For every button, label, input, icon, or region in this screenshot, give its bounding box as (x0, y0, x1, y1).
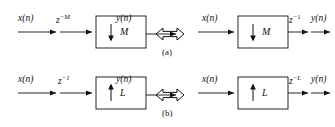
input-signal-label: x(n) (202, 14, 217, 24)
downsample-arrow-icon (106, 22, 116, 42)
row-b-left-output-label: y(n) (116, 75, 131, 85)
row-a-caption: (a) (162, 47, 172, 57)
equivalence-double-arrow-icon (155, 24, 185, 44)
output-signal-label: y(n) (311, 75, 326, 85)
row-b-right-system: L x(n) z−L y(n) (196, 63, 332, 121)
downsample-arrow-icon (248, 22, 258, 42)
upsample-arrow-icon (248, 83, 258, 103)
noble-identities-figure: M x(n) z−M y(n) (a) (0, 0, 335, 127)
figure-row-b: L x(n) z−1 y(n) (b) (0, 63, 335, 121)
block-factor-label: L (262, 87, 268, 98)
block-factor-label: L (120, 87, 126, 98)
delay-element-label: z−1 (289, 14, 301, 26)
row-b-caption: (b) (162, 108, 173, 118)
input-signal-label: x(n) (18, 14, 33, 24)
input-signal-label: x(n) (18, 75, 33, 85)
delay-element-label: z−L (289, 75, 301, 87)
delay-element-label: z−M (56, 14, 70, 26)
block-factor-label: M (120, 26, 128, 37)
row-b-left-signal-flow (8, 63, 156, 121)
upsample-arrow-icon (106, 83, 116, 103)
row-b-left-system: L x(n) z−1 (8, 63, 156, 121)
row-a-left-output-label: y(n) (116, 14, 131, 24)
block-factor-label: M (262, 26, 270, 37)
row-a-right-system: M x(n) z−1 y(n) (196, 2, 332, 60)
input-signal-label: x(n) (202, 75, 217, 85)
equivalence-double-arrow-icon (155, 85, 185, 105)
figure-row-a: M x(n) z−M y(n) (a) (0, 2, 335, 60)
delay-element-label: z−1 (58, 75, 70, 87)
output-signal-label: y(n) (311, 14, 326, 24)
row-a-left-system: M x(n) z−M (8, 2, 156, 60)
row-a-left-signal-flow (8, 2, 156, 60)
